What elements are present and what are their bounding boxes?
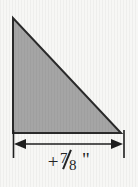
figure-canvas: +78" (0, 0, 138, 187)
dimension-arrowhead-left-icon (14, 139, 26, 149)
dimension-sign: + (48, 151, 59, 172)
right-triangle-shape (13, 18, 121, 133)
dimension-arrowhead-right-icon (111, 139, 123, 149)
inch-unit-symbol: " (82, 149, 90, 170)
fraction-seven-eighths: 78 (60, 150, 80, 172)
dimension-label: +78" (0, 149, 138, 173)
fraction-denominator: 8 (69, 154, 77, 176)
